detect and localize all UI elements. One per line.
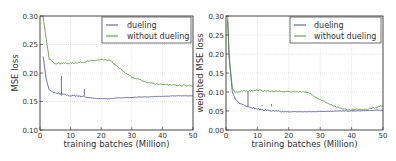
y-tick-label: 0.10 (208, 89, 224, 97)
x-axis-label: training batches (Million) (252, 139, 358, 149)
chart-weighted-mse-loss: 010203040500.000.050.100.150.200.250.30 … (195, 13, 387, 150)
legend: dueling without dueling (290, 17, 381, 43)
y-tick-label: 0.15 (208, 70, 224, 78)
y-tick-label: 0.30 (208, 13, 224, 21)
legend: dueling without dueling (102, 17, 191, 43)
y-tick-label: 0.20 (22, 70, 38, 78)
x-tick-label: 50 (379, 132, 388, 140)
y-tick-label: 0.00 (208, 127, 224, 135)
legend-label-dueling: dueling (127, 21, 157, 30)
x-tick-label: 0 (38, 132, 42, 140)
y-tick-label: 0.20 (208, 51, 224, 59)
y-tick-label: 0.15 (22, 98, 38, 106)
y-tick-label: 0.10 (22, 127, 38, 135)
legend-label-without-dueling: without dueling (127, 32, 189, 41)
chart-mse-loss: 010203040500.100.150.200.250.30 training… (10, 13, 197, 150)
y-axis-label: weighted MSE loss (195, 33, 205, 113)
x-tick-label: 50 (189, 132, 198, 140)
y-tick-label: 0.30 (22, 13, 38, 21)
x-axis-label: training batches (Million) (64, 139, 170, 149)
y-tick-label: 0.25 (22, 41, 38, 49)
y-tick-label: 0.25 (208, 32, 224, 40)
x-tick-label: 0 (224, 132, 228, 140)
y-tick-label: 0.05 (208, 108, 224, 116)
legend-label-dueling: dueling (314, 21, 344, 30)
y-axis-label: MSE loss (10, 54, 20, 92)
legend-label-without-dueling: without dueling (314, 32, 376, 41)
figure: 010203040500.100.150.200.250.30 training… (0, 0, 396, 161)
